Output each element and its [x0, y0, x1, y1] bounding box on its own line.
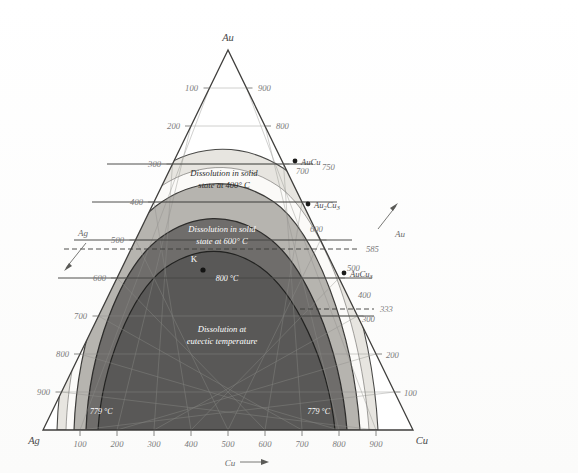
right-tick-0: 900: [258, 83, 272, 93]
phase-label-aucu: AuCu: [300, 157, 321, 167]
right-tick-5: 400: [358, 290, 372, 300]
region-label-400-line2: state at 400° C: [198, 180, 250, 190]
left-tick-2: 300: [147, 159, 162, 169]
marker-aucu3: [342, 271, 347, 276]
bottom-tick-6: 700: [296, 439, 310, 449]
axis-arrow-label-cu: Cu: [225, 458, 236, 468]
left-tick-8: 900: [37, 387, 51, 397]
region-label-eutectic-line2: eutectic temperature: [187, 336, 258, 346]
phase-label-au2cu3: Au2Cu3: [313, 200, 340, 211]
point-k-label: K: [191, 254, 198, 264]
isotherm-585-label: 585: [366, 244, 380, 254]
right-tick-8: 100: [404, 388, 418, 398]
vertex-label-au: Au: [221, 32, 234, 43]
left-tick-6: 700: [74, 311, 88, 321]
point-k-marker: [200, 267, 205, 272]
left-tick-1: 200: [167, 121, 181, 131]
region-label-400-line1: Dissolution in solid: [189, 168, 258, 178]
bottom-tick-1: 200: [111, 439, 125, 449]
left-tick-4: 500: [111, 235, 125, 245]
region-label-600-line1: Dissolution in solid: [187, 224, 256, 234]
left-tick-7: 800: [56, 349, 70, 359]
bottom-tick-0: 100: [74, 439, 88, 449]
left-tick-3: 400: [130, 197, 144, 207]
bottom-axis-tick-labels: 100 200 300 400 500 600 700 800 900: [74, 439, 384, 449]
bottom-tick-8: 900: [370, 439, 384, 449]
right-tick-7: 200: [386, 350, 400, 360]
bottom-tick-4: 500: [222, 439, 236, 449]
marker-au2cu3: [306, 202, 311, 207]
right-tick-3: 600: [310, 224, 324, 234]
isotherm-750-label: 750: [322, 162, 336, 172]
marker-aucu: [293, 159, 298, 164]
right-tick-1: 800: [276, 121, 290, 131]
phase-diagram-figure: Figure 4.69 The Au–Ag–Cu phase diagram. …: [0, 0, 578, 473]
phase-label-aucu3: AuCu3: [349, 269, 373, 280]
eutectic-temp-left: 779 °C: [90, 407, 113, 416]
right-tick-2: 700: [296, 166, 310, 176]
bottom-tick-5: 600: [259, 439, 273, 449]
left-tick-5: 600: [93, 273, 107, 283]
vertex-label-ag: Ag: [27, 435, 40, 446]
left-tick-0: 100: [185, 83, 199, 93]
ternary-diagram-svg: Au Ag Cu 100 200 300 400 500 600 700 800…: [0, 0, 578, 473]
isotherm-800-label: 800 °C: [216, 274, 239, 283]
bottom-tick-3: 400: [185, 439, 199, 449]
region-label-eutectic-line1: Dissolution at: [197, 324, 247, 334]
right-tick-6: 300: [361, 314, 376, 324]
axis-arrow-label-au: Au: [394, 229, 405, 239]
vertex-label-cu: Cu: [416, 435, 428, 446]
axis-arrow-label-ag: Ag: [77, 228, 88, 238]
bottom-tick-2: 300: [147, 439, 162, 449]
region-label-600-line2: state at 600° C: [196, 236, 248, 246]
isotherm-333-label: 333: [379, 304, 393, 314]
eutectic-temp-right: 779 °C: [307, 407, 330, 416]
bottom-tick-7: 800: [333, 439, 347, 449]
